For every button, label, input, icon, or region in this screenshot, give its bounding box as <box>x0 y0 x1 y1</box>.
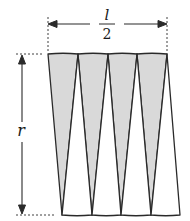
parallelogram-diagram: l 2 r <box>0 0 190 221</box>
arrow-left-icon <box>48 21 57 28</box>
arrow-right-icon <box>158 21 167 28</box>
arrow-up-icon <box>19 55 26 64</box>
arrow-down-icon <box>19 205 26 214</box>
width-denominator-label: 2 <box>103 26 112 42</box>
height-label: r <box>17 121 26 140</box>
width-numerator-label: l <box>105 6 110 24</box>
